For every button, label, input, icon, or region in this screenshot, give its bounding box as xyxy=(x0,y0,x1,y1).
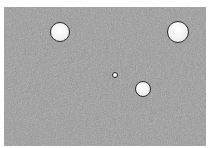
white-circle-spot xyxy=(135,81,151,97)
white-circle-spot xyxy=(167,21,189,43)
white-circle-spot xyxy=(112,72,118,78)
white-circle-spot xyxy=(50,22,70,42)
